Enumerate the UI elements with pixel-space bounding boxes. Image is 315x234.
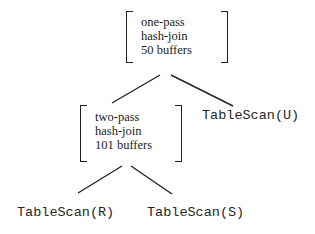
- node-two-pass-hash-join: two-pass hash-join 101 buffers: [80, 105, 182, 162]
- node-line: hash-join: [141, 30, 221, 44]
- right-bracket-icon: [221, 11, 228, 63]
- left-bracket-icon: [80, 105, 87, 162]
- edge-leftnode-to-tablescan-r: [78, 166, 122, 193]
- edge-leftnode-to-tablescan-s: [131, 166, 172, 194]
- node-line: 101 buffers: [95, 139, 175, 153]
- leaf-tablescan-r: TableScan(R): [17, 205, 114, 220]
- node-one-pass-hash-join: one-pass hash-join 50 buffers: [126, 11, 228, 63]
- left-bracket-icon: [126, 11, 133, 63]
- node-line: one-pass: [141, 16, 221, 30]
- node-line: 50 buffers: [141, 44, 221, 58]
- node-text: one-pass hash-join 50 buffers: [133, 11, 221, 63]
- node-line: two-pass: [95, 111, 175, 125]
- query-plan-diagram: one-pass hash-join 50 buffers two-pass h…: [0, 0, 315, 234]
- edge-root-to-left-node: [112, 75, 160, 103]
- edge-root-to-tablescan-u: [171, 75, 233, 106]
- leaf-tablescan-u: TableScan(U): [202, 108, 299, 123]
- node-line: hash-join: [95, 125, 175, 139]
- leaf-tablescan-s: TableScan(S): [147, 205, 244, 220]
- right-bracket-icon: [175, 105, 182, 162]
- node-text: two-pass hash-join 101 buffers: [87, 105, 175, 162]
